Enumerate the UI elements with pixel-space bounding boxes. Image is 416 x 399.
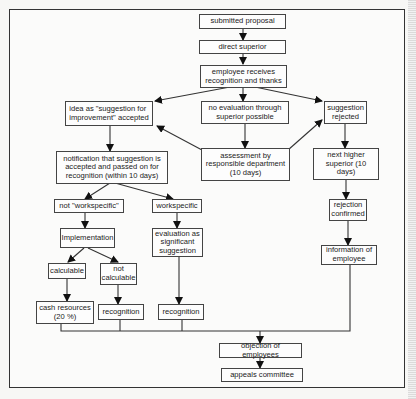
node-information-employee: information of employee (321, 245, 377, 265)
node-rejection-confirmed: rejection confirmed (329, 199, 367, 221)
node-recognition-1: recognition (98, 304, 144, 320)
node-objection: objection of employees (219, 343, 302, 358)
node-submitted-proposal: submitted proposal (199, 14, 286, 29)
node-suggestion-rejected: suggestion rejected (324, 101, 367, 124)
node-recognition-thanks: employee receives recognition and thanks (200, 65, 287, 88)
node-not-calculable: not calculable (100, 263, 137, 285)
node-recognition-2: recognition (158, 304, 204, 320)
node-next-higher-superior: next higher superior (10 days) (313, 148, 379, 180)
node-calculable: calculable (48, 263, 86, 279)
node-notification: notification that suggestion is accepted… (56, 151, 168, 184)
node-cash-resources: cash resources (20 %) (36, 301, 94, 324)
node-idea-accepted: idea as "suggestion for improvement" acc… (65, 101, 153, 126)
node-no-evaluation: no evaluation through superior possible (201, 101, 289, 124)
node-workspecific: workspecific (152, 199, 202, 213)
node-appeals-committee: appeals committee (221, 368, 303, 382)
node-implementation: Implementation (60, 228, 115, 248)
node-evaluation-significant: evaluation as significant suggestion (152, 228, 203, 257)
node-assessment: assessment by responsible department (10… (201, 148, 290, 181)
node-direct-superior: direct superior (199, 40, 286, 54)
node-not-workspecific: not "workspecific" (54, 199, 124, 213)
